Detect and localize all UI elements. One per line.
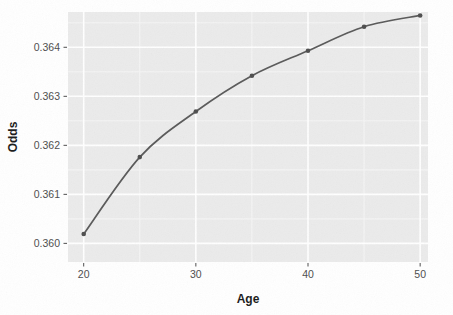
chart-container: 20304050 0.3600.3610.3620.3630.364 Age O… <box>0 0 453 315</box>
y-tick-label: 0.361 <box>34 188 60 200</box>
data-point <box>194 109 199 114</box>
y-tick-label: 0.364 <box>34 41 60 53</box>
y-tick-label: 0.360 <box>34 237 60 249</box>
odds-vs-age-line-chart: 20304050 0.3600.3610.3620.3630.364 Age O… <box>0 0 453 315</box>
x-tick-label: 30 <box>190 268 202 280</box>
data-point <box>418 13 423 18</box>
y-tick-label: 0.363 <box>34 90 60 102</box>
data-point <box>81 232 86 237</box>
y-tick-label: 0.362 <box>34 139 60 151</box>
data-point <box>137 155 142 160</box>
data-point <box>250 73 255 78</box>
plot-panel-background <box>68 12 428 262</box>
y-axis-title: Odds <box>6 121 20 152</box>
x-tick-label: 20 <box>78 268 90 280</box>
x-tick-label: 40 <box>302 268 314 280</box>
x-axis-title: Age <box>237 292 260 306</box>
data-point <box>362 24 367 29</box>
data-point <box>306 48 311 53</box>
x-tick-label: 50 <box>414 268 426 280</box>
